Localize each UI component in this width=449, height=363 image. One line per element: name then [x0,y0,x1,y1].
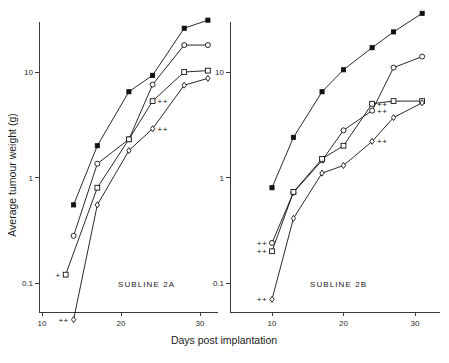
significance-annotation: ++ [257,247,267,256]
y-tick-label: 10 [215,68,224,77]
y-tick-label: 1 [220,174,225,183]
data-point-open-diamond [270,296,274,302]
data-point-open-square [95,185,100,190]
data-point-filled-square [370,46,374,50]
data-point-filled-square [341,68,345,72]
y-tick-label: 0.1 [22,279,34,288]
data-point-filled-square [127,90,131,94]
x-axis-title: Days post implantation [171,334,277,346]
data-point-open-circle [341,128,346,133]
data-point-open-square [320,157,325,162]
y-axis-title: Average tumour weight (g) [6,113,18,237]
significance-annotation: ++ [158,97,168,106]
figure-container: 1010.1102030+++++++SUBLINE 2A 1010.11020… [0,0,449,363]
y-tick-label: 10 [24,68,33,77]
data-point-open-square [206,68,211,73]
significance-annotation: ++ [58,316,68,325]
axis-titles: Days post implantationAverage tumour wei… [6,113,277,346]
significance-annotation: ++ [257,295,267,304]
significance-annotation: ++ [158,125,168,134]
data-point-open-circle [150,82,155,87]
significance-annotation: + [56,271,61,280]
panel-subline-2b: 1010.1102030++++++++++++SUBLINE 2B [213,11,440,328]
data-point-open-square [341,143,346,148]
data-point-open-circle [370,108,375,113]
data-point-filled-square [391,30,395,34]
data-point-open-diamond [206,75,210,81]
x-tick-label: 10 [38,319,47,328]
data-point-open-square [291,190,296,195]
chart-svg: 1010.1102030+++++++SUBLINE 2A 1010.11020… [0,0,449,363]
series-line-open-square [272,101,422,251]
data-point-open-circle [182,43,187,48]
data-point-open-square [370,101,375,106]
panel-title-label: SUBLINE 2B [310,280,367,289]
data-point-open-diamond [71,317,75,323]
series-line-open-circle [74,45,208,236]
significance-annotation: ++ [377,100,387,109]
y-tick-label: 0.1 [213,279,225,288]
data-point-filled-square [291,135,295,139]
data-point-filled-square [151,73,155,77]
data-point-open-circle [420,54,425,59]
data-point-open-diamond [341,162,345,168]
x-tick-label: 20 [117,319,126,328]
panel-title-label: SUBLINE 2A [118,280,175,289]
data-point-open-square [391,99,396,104]
series-line-open-square [66,71,208,275]
data-point-open-square [182,70,187,75]
data-point-open-square [150,99,155,104]
data-point-open-circle [205,43,210,48]
panel-subline-2a: 1010.1102030+++++++SUBLINE 2A [22,18,218,328]
data-point-open-circle [71,233,76,238]
data-point-open-circle [391,65,396,70]
x-tick-label: 30 [411,319,420,328]
y-tick-label: 1 [29,174,34,183]
data-point-filled-square [420,11,424,15]
x-tick-label: 20 [339,319,348,328]
data-point-filled-square [182,26,186,30]
series-line-open-diamond [272,103,422,299]
data-point-open-square [270,249,275,254]
data-point-filled-square [72,203,76,207]
series-line-open-circle [272,57,422,243]
x-tick-label: 30 [196,319,205,328]
data-point-filled-square [320,90,324,94]
data-point-open-circle [270,240,275,245]
data-point-open-square [63,272,68,277]
x-tick-label: 10 [268,319,277,328]
data-point-filled-square [270,186,274,190]
series-line-filled-square [272,13,422,187]
data-point-open-square [127,137,132,142]
data-point-filled-square [206,18,210,22]
data-point-filled-square [95,144,99,148]
data-point-open-circle [95,161,100,166]
significance-annotation: ++ [377,137,387,146]
